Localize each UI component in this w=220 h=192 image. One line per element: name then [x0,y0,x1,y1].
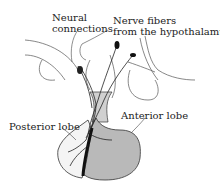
label-neural-connections-1: Neural [52,12,87,23]
label-neural-connections-2: connections [52,23,113,34]
fiber-terminal [130,53,136,57]
fiber-terminal [115,41,120,49]
label-nerve-fibers-2: from the hypothalamus [113,26,220,37]
label-posterior-lobe: Posterior lobe [9,121,80,132]
label-nerve-fibers-1: Nerve fibers [113,15,176,26]
fiber-terminal [77,66,83,74]
label-anterior-lobe: Anterior lobe [121,110,188,121]
surrounding-tissue-outlines [25,36,195,100]
pituitary-diagram: Neural connections Nerve fibers from the… [0,0,220,192]
